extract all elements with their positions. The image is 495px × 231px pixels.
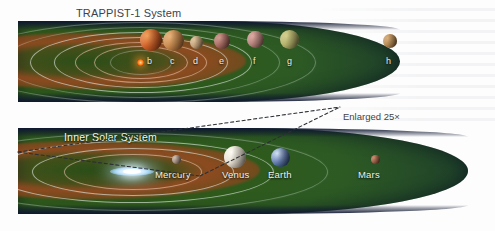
planet-label-g: g bbox=[287, 56, 292, 66]
planet-trappist-1d bbox=[190, 36, 203, 49]
trappist-disk bbox=[18, 21, 400, 102]
planet-label-f: f bbox=[253, 56, 256, 66]
planet-label-e: e bbox=[219, 56, 224, 66]
planet-earth bbox=[271, 148, 290, 167]
sun-core bbox=[123, 169, 141, 174]
planet-trappist-1c bbox=[163, 30, 184, 51]
panel-title-trappist: TRAPPIST-1 System bbox=[76, 7, 181, 19]
planet-mars bbox=[371, 155, 380, 164]
planet-label-d: d bbox=[193, 56, 198, 66]
planet-trappist-1g bbox=[280, 30, 299, 49]
planet-trappist-1e bbox=[214, 33, 230, 49]
planet-mercury bbox=[172, 155, 181, 164]
planet-label-earth: Earth bbox=[268, 169, 292, 180]
planet-label-b: b bbox=[147, 56, 152, 66]
planet-trappist-1b bbox=[140, 29, 162, 51]
planet-label-mercury: Mercury bbox=[155, 169, 191, 180]
enlarged-annotation-label: Enlarged 25× bbox=[343, 111, 400, 122]
planet-label-c: c bbox=[170, 56, 175, 66]
planet-trappist-1h bbox=[383, 34, 397, 48]
planet-venus bbox=[224, 146, 246, 168]
planet-label-mars: Mars bbox=[358, 169, 380, 180]
figure-canvas: TRAPPIST-1 System b c d e f g h bbox=[0, 0, 495, 231]
star-trappist-1 bbox=[137, 59, 144, 66]
panel-trappist-1-system bbox=[18, 21, 400, 102]
panel-title-inner-solar-system: Inner Solar System bbox=[64, 131, 157, 143]
planet-label-h: h bbox=[386, 56, 391, 66]
planet-trappist-1f bbox=[247, 31, 264, 48]
planet-label-venus: Venus bbox=[222, 169, 249, 180]
